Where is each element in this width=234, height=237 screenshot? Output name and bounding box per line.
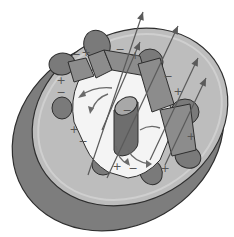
positive-charge-label: + — [186, 130, 195, 143]
arrowhead-icon — [137, 12, 144, 21]
positive-charge-label: + — [130, 49, 139, 62]
negative-charge-label: − — [56, 86, 65, 99]
negative-charge-label: − — [128, 162, 137, 175]
magnetron-diagram: +−−++−−+−+−++−+ — [0, 0, 234, 237]
positive-charge-label: + — [112, 160, 121, 173]
positive-charge-label: + — [160, 162, 169, 175]
negative-charge-label: − — [163, 70, 172, 83]
negative-charge-label: − — [122, 104, 131, 117]
positive-charge-label: + — [173, 85, 182, 98]
positive-charge-label: + — [69, 123, 78, 136]
positive-charge-label: + — [81, 46, 90, 59]
negative-charge-label: − — [115, 43, 124, 56]
magnetron-illustration: +−−++−−+−+−++−+ — [0, 0, 234, 237]
negative-charge-label: − — [78, 135, 87, 148]
negative-charge-label: − — [71, 48, 80, 61]
